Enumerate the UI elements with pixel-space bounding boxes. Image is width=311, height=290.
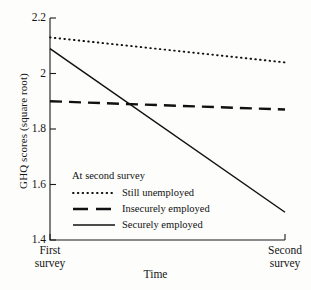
x-tick-marks	[50, 234, 285, 240]
legend-swatch-dotted-icon	[72, 188, 116, 198]
legend-label: Securely employed	[122, 217, 203, 233]
legend-label: Still unemployed	[122, 185, 194, 201]
y-tick-label: 1.6	[20, 179, 46, 191]
legend-label: Insecurely employed	[122, 201, 210, 217]
y-tick-label: 2.2	[20, 12, 46, 24]
x-tick-label-line: Second	[242, 244, 311, 257]
legend-swatch-solid-icon	[72, 220, 116, 230]
legend-title: At second survey	[72, 168, 210, 184]
series-line-still-unemployed	[50, 37, 285, 62]
y-tick-label: 1.8	[20, 123, 46, 135]
series-line-insecurely-employed	[50, 101, 285, 109]
x-tick-label-second-survey: Second survey	[242, 244, 311, 270]
x-tick-label-first-survey: First survey	[7, 244, 93, 270]
x-axis-label: Time	[0, 268, 311, 280]
chart-legend: At second survey Still unemployed Insecu…	[72, 168, 210, 233]
x-tick-label-line: First	[7, 244, 93, 257]
chart-figure: GHQ scores (square root) 2.2 2 1.8 1.6 1…	[0, 0, 311, 290]
legend-swatch-dashed-icon	[72, 204, 116, 214]
legend-item-insecurely-employed: Insecurely employed	[72, 201, 210, 217]
legend-item-securely-employed: Securely employed	[72, 217, 210, 233]
legend-item-still-unemployed: Still unemployed	[72, 185, 210, 201]
y-tick-label: 2	[20, 68, 46, 80]
